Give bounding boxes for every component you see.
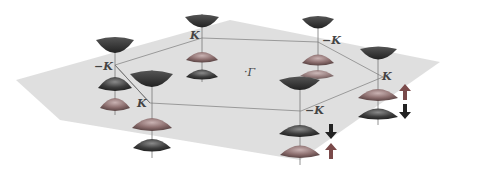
- valley-label-minus-k-front: −K: [305, 105, 324, 116]
- spin-down-arrow-icon: [399, 104, 411, 119]
- valley-label-k-top: K: [190, 30, 200, 41]
- valley-label-k-front-left: K: [137, 98, 147, 109]
- valley-label-k-right: K: [382, 71, 392, 82]
- gamma-point-label: ·Γ: [244, 67, 255, 78]
- valley-label-minus-k-top-right: −K: [322, 35, 341, 46]
- valley-label-minus-k-left: −K: [94, 61, 113, 72]
- spin-up-arrow-icon: [325, 143, 337, 159]
- brillouin-zone-diagram: [0, 0, 479, 169]
